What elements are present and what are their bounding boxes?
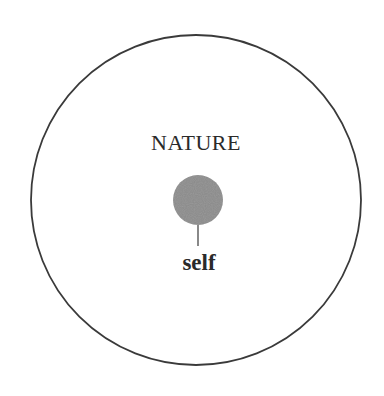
self-label: self — [182, 250, 216, 275]
self-inner-circle — [173, 175, 223, 225]
nature-self-diagram: NATURE self — [0, 0, 384, 396]
nature-label: NATURE — [151, 130, 241, 155]
